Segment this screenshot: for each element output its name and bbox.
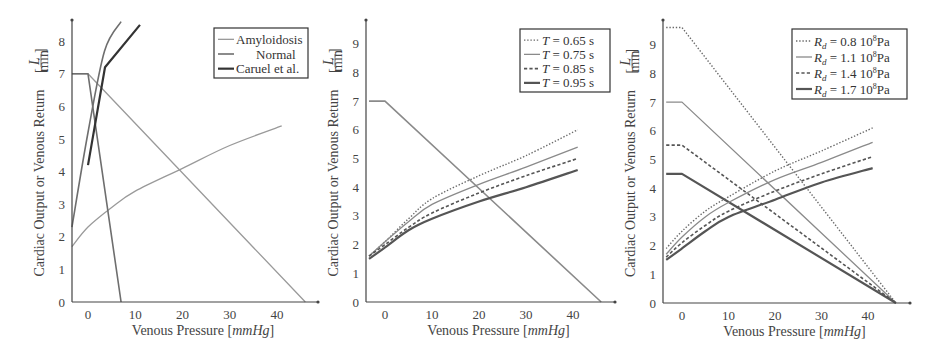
y-tick-label: 5 [59, 132, 66, 147]
x-axis-label: Venous Pressure [mmHg] [427, 323, 569, 338]
cardiac-output-line [72, 22, 121, 227]
legend-label: Amyloidosis [236, 32, 302, 47]
svg-text:]: ] [624, 49, 639, 54]
legend-label: Normal [256, 47, 296, 62]
x-tick-label: 40 [862, 308, 875, 323]
x-tick-label: 30 [520, 307, 533, 322]
y-tick-label: 5 [650, 152, 657, 167]
x-tick-label: 40 [271, 307, 284, 322]
y-tick-label: 7 [650, 95, 657, 110]
legend: Rd = 0.8 108PaRd = 1.1 108PaRd = 1.4 108… [792, 29, 907, 99]
y-tick-label: 7 [59, 66, 66, 81]
y-tick-label: 8 [353, 65, 360, 80]
y-tick-label: 6 [650, 123, 657, 138]
venous-return-line [666, 174, 896, 303]
x-tick-label: 20 [769, 308, 782, 323]
legend: AmyloidosisNormalCaruel et al. [214, 28, 308, 78]
svg-text:Cardiac Output or Venous Retur: Cardiac Output or Venous Return [623, 90, 638, 277]
y-tick-label: 8 [59, 34, 66, 49]
y-tick-label: 3 [650, 209, 657, 224]
y-tick-label: 8 [650, 66, 657, 81]
x-tick-label: 10 [129, 307, 142, 322]
y-tick-label: 4 [59, 164, 66, 179]
svg-text:Cardiac Output or Venous Retur: Cardiac Output or Venous Return [32, 89, 47, 276]
y-tick-label: 2 [59, 229, 66, 244]
y-axis-label: Cardiac Output or Venous Return [Lmin] [618, 49, 642, 277]
y-axis-arrow-icon [70, 18, 73, 21]
x-tick-label: 40 [567, 307, 580, 322]
x-tick-label: 30 [815, 308, 828, 323]
svg-text:]: ] [327, 48, 342, 53]
svg-text:]: ] [33, 48, 48, 53]
y-tick-label: 1 [650, 267, 657, 282]
y-tick-label: 9 [353, 36, 360, 51]
y-tick-label: 6 [59, 99, 66, 114]
cardiac-output-line [369, 159, 578, 257]
y-tick-label: 5 [353, 151, 360, 166]
y-tick-label: 4 [353, 180, 360, 195]
legend-label: T = 0.85 s [542, 61, 594, 76]
x-axis-label: Venous Pressure [mmHg] [723, 324, 865, 339]
cardiac-output-line [369, 147, 578, 256]
venous-return-line [72, 74, 305, 302]
x-tick-label: 0 [679, 308, 686, 323]
svg-text:Cardiac Output or Venous Retur: Cardiac Output or Venous Return [326, 89, 341, 276]
x-tick-label: 10 [426, 307, 439, 322]
x-axis-arrow-icon [316, 300, 319, 303]
legend-label: T = 0.75 s [542, 47, 594, 62]
legend: T = 0.65 sT = 0.75 sT = 0.85 sT = 0.95 s [520, 29, 610, 92]
legend-label: T = 0.95 s [542, 75, 594, 90]
y-tick-label: 2 [353, 237, 360, 252]
cardiac-output-line [72, 126, 282, 247]
venous-return-line [72, 74, 121, 302]
legend-label: Caruel et al. [236, 61, 299, 76]
y-axis-arrow-icon [661, 18, 664, 21]
venous-return-line [666, 102, 896, 303]
x-tick-label: 20 [473, 307, 486, 322]
y-axis-label: Cardiac Output or Venous Return [Lmin] [321, 48, 345, 276]
y-tick-label: 3 [59, 197, 66, 212]
x-tick-label: 30 [223, 307, 236, 322]
plot-area [369, 101, 601, 302]
y-tick-label: 1 [353, 266, 360, 281]
x-axis-arrow-icon [613, 300, 616, 303]
y-tick-label: 1 [59, 262, 66, 277]
y-axis-arrow-icon [364, 18, 367, 21]
y-tick-label: 7 [353, 94, 360, 109]
chart-panel-3: 0102030400123456789Venous Pressure [mmHg… [618, 18, 912, 339]
cardiac-output-line [666, 157, 872, 257]
chart-panel-1: 010203040012345678Venous Pressure [mmHg]… [27, 18, 320, 338]
venous-return-line [369, 101, 601, 302]
x-tick-label: 0 [382, 307, 389, 322]
x-tick-label: 20 [176, 307, 189, 322]
y-axis-label: Cardiac Output or Venous Return [Lmin] [27, 48, 51, 276]
x-tick-label: 0 [85, 307, 92, 322]
y-tick-label: 3 [353, 208, 360, 223]
figure: 010203040012345678Venous Pressure [mmHg]… [0, 0, 949, 356]
y-tick-label: 6 [353, 122, 360, 137]
y-tick-label: 0 [650, 296, 657, 311]
y-tick-label: 2 [650, 238, 657, 253]
y-tick-label: 4 [650, 181, 657, 196]
y-tick-label: 9 [650, 37, 657, 52]
x-axis-arrow-icon [908, 301, 911, 304]
cardiac-output-line [88, 25, 140, 165]
x-axis-label: Venous Pressure [mmHg] [132, 323, 274, 338]
y-tick-label: 0 [59, 295, 66, 310]
x-tick-label: 10 [722, 308, 735, 323]
chart-panel-2: 0102030400123456789Venous Pressure [mmHg… [321, 18, 617, 338]
y-tick-label: 0 [353, 295, 360, 310]
legend-label: T = 0.65 s [542, 33, 594, 48]
